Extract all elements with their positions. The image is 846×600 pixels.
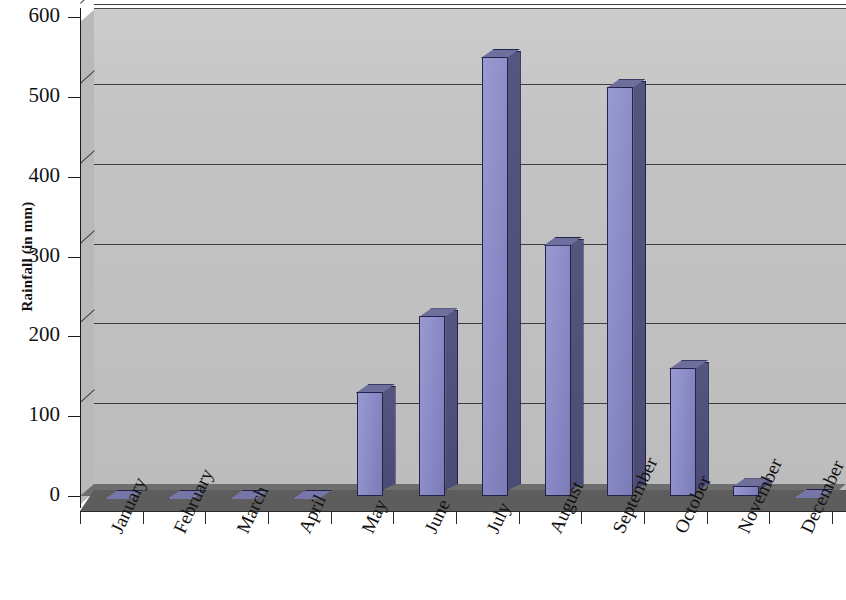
bar-side-face bbox=[633, 81, 646, 490]
rainfall-bar-chart: Rainfall (in mm) 0100200300400500600 Jan… bbox=[0, 0, 846, 600]
gridline-depth-edge bbox=[80, 243, 97, 259]
y-axis-tick-label: 100 bbox=[4, 404, 60, 425]
y-axis-tick bbox=[68, 496, 81, 497]
plot-wall bbox=[94, 8, 846, 490]
y-axis-tick-label: 0 bbox=[4, 484, 60, 505]
bar-june[interactable] bbox=[419, 316, 445, 496]
bar-july[interactable] bbox=[482, 57, 508, 496]
y-axis-tick-label: 400 bbox=[4, 165, 60, 186]
bar-front-face bbox=[357, 392, 383, 496]
x-axis-tick bbox=[205, 511, 206, 524]
gridline bbox=[94, 84, 846, 85]
bar-september[interactable] bbox=[607, 87, 633, 496]
bar-august[interactable] bbox=[545, 245, 571, 496]
bar-front-face bbox=[670, 368, 696, 496]
x-axis-tick bbox=[393, 511, 394, 524]
gridline-depth-edge bbox=[80, 322, 97, 338]
bar-side-face bbox=[571, 239, 584, 490]
y-axis-tick-label: 500 bbox=[4, 85, 60, 106]
y-axis-tick-label: 600 bbox=[4, 5, 60, 26]
x-axis-tick bbox=[769, 511, 770, 524]
x-axis-tick bbox=[519, 511, 520, 524]
x-axis-tick bbox=[80, 511, 81, 524]
x-axis-tick bbox=[707, 511, 708, 524]
gridline-depth-edge bbox=[80, 402, 97, 418]
y-axis-tick bbox=[68, 336, 81, 337]
plot-wall-sheen bbox=[94, 9, 846, 490]
bar-front-face bbox=[419, 316, 445, 496]
y-axis-tick bbox=[68, 257, 81, 258]
gridline bbox=[94, 4, 846, 5]
y-axis-tick bbox=[68, 416, 81, 417]
gridline-depth-edge bbox=[80, 83, 97, 99]
x-axis-tick bbox=[456, 511, 457, 524]
y-axis-tick bbox=[68, 177, 81, 178]
bar-side-face bbox=[445, 310, 458, 490]
x-axis-tick bbox=[268, 511, 269, 524]
x-axis-tick bbox=[581, 511, 582, 524]
y-axis-line bbox=[80, 8, 81, 508]
bar-side-face bbox=[383, 386, 396, 490]
bar-october[interactable] bbox=[670, 368, 696, 496]
bar-may[interactable] bbox=[357, 392, 383, 496]
bar-front-face bbox=[607, 87, 633, 496]
bar-side-face bbox=[696, 362, 709, 490]
y-axis-tick-label: 300 bbox=[4, 245, 60, 266]
bar-front-face bbox=[545, 245, 571, 496]
y-axis-tick-label: 200 bbox=[4, 324, 60, 345]
bar-side-face bbox=[508, 51, 521, 490]
y-axis-tick bbox=[68, 97, 81, 98]
gridline bbox=[94, 323, 846, 324]
y-axis-tick bbox=[68, 17, 81, 18]
gridline-depth-edge bbox=[80, 163, 97, 179]
gridline-depth-edge bbox=[80, 3, 97, 19]
gridline bbox=[94, 244, 846, 245]
x-axis-tick bbox=[832, 511, 833, 524]
x-axis-tick bbox=[331, 511, 332, 524]
bar-front-face bbox=[482, 57, 508, 496]
gridline bbox=[94, 403, 846, 404]
x-axis-tick bbox=[143, 511, 144, 524]
x-axis-tick bbox=[644, 511, 645, 524]
gridline bbox=[94, 164, 846, 165]
